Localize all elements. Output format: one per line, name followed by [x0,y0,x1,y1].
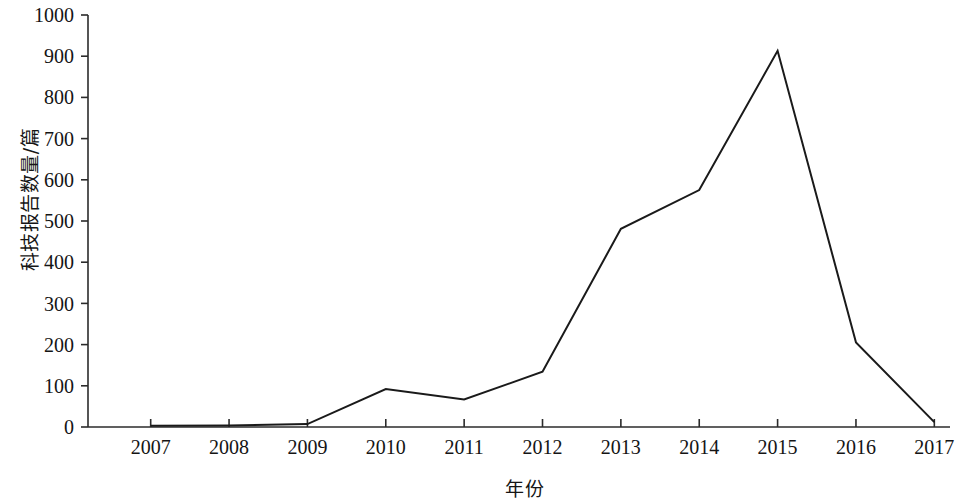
x-tick-label: 2014 [654,436,744,458]
x-tick-label: 2007 [106,436,196,458]
axis-spines [88,15,950,427]
x-tick-label: 2011 [419,436,509,458]
x-tick-label: 2016 [811,436,901,458]
data-series-line [151,51,935,426]
x-tick-label: 2015 [733,436,823,458]
x-tick-label: 2017 [889,436,959,458]
x-tick-label: 2012 [498,436,588,458]
x-tick-label: 2008 [184,436,274,458]
x-axis-title: 年份 [0,474,959,501]
y-axis-ticks [81,15,88,427]
x-tick-label: 2013 [576,436,666,458]
x-axis-ticks [151,419,935,427]
x-tick-label: 2010 [341,436,431,458]
x-tick-label: 2009 [262,436,352,458]
